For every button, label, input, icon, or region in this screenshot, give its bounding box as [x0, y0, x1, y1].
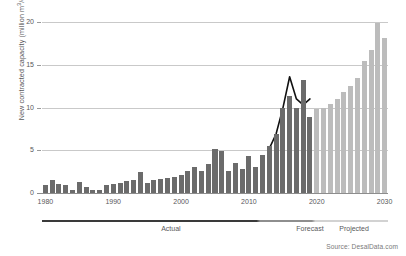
- y-axis-title-post: /d): [17, 0, 26, 3]
- bar: [307, 117, 312, 193]
- bar: [321, 108, 326, 194]
- bar: [246, 156, 251, 193]
- source-caption: Source: DesalData.com: [326, 243, 398, 250]
- y-axis-tick: [37, 150, 41, 151]
- bar: [151, 180, 156, 193]
- phase-band-line: [42, 220, 388, 222]
- bar: [43, 185, 48, 193]
- bar: [84, 187, 89, 193]
- y-axis-tick: [37, 22, 41, 23]
- phase-band-label: Actual: [136, 225, 206, 232]
- bar: [111, 184, 116, 193]
- plot-area: [42, 22, 388, 193]
- bar: [56, 184, 61, 193]
- bar: [280, 108, 285, 193]
- bar: [274, 134, 279, 193]
- bar: [199, 171, 204, 193]
- x-axis-line: [37, 193, 388, 194]
- bar: [314, 109, 319, 193]
- bar: [301, 80, 306, 193]
- y-axis-title-exponent: 3: [16, 3, 22, 6]
- y-axis-tick-label: 20: [0, 18, 34, 25]
- bar: [104, 185, 109, 193]
- chart-figure: New contracted capacity (million m3/d) S…: [0, 0, 406, 256]
- bar: [131, 180, 136, 193]
- bar: [287, 96, 292, 193]
- gridline: [42, 22, 388, 23]
- bar: [362, 61, 367, 193]
- y-axis-tick: [37, 65, 41, 66]
- bar: [294, 108, 299, 194]
- y-axis-tick-label: 10: [0, 104, 34, 111]
- bar: [341, 92, 346, 193]
- bar: [328, 104, 333, 193]
- bar: [118, 183, 123, 193]
- bar: [90, 190, 95, 193]
- bar: [172, 177, 177, 193]
- x-axis-tick-label: 2020: [297, 198, 337, 205]
- x-axis-tick-label: 2010: [229, 198, 269, 205]
- bar: [253, 167, 258, 194]
- y-axis-tick-label: 0: [0, 189, 34, 196]
- bar: [260, 155, 265, 193]
- bar: [179, 175, 184, 193]
- gridline: [42, 65, 388, 66]
- bar: [206, 164, 211, 193]
- bar: [348, 86, 353, 193]
- bar: [77, 182, 82, 193]
- bar: [226, 171, 231, 193]
- bar: [165, 178, 170, 193]
- bar: [138, 172, 143, 193]
- phase-band-label: Projected: [319, 225, 389, 232]
- bar: [63, 185, 68, 193]
- x-axis-tick-label: 2030: [365, 198, 405, 205]
- bar: [158, 179, 163, 193]
- bar: [355, 78, 360, 193]
- bar: [97, 190, 102, 193]
- bar: [70, 190, 75, 193]
- x-axis-tick-label: 1990: [93, 198, 133, 205]
- bar: [267, 146, 272, 193]
- bar: [212, 149, 217, 193]
- x-axis-tick-label: 2000: [161, 198, 201, 205]
- y-axis-tick: [37, 108, 41, 109]
- bar: [335, 99, 340, 193]
- x-axis-tick-label: 1980: [25, 198, 65, 205]
- bar: [233, 163, 238, 193]
- bar: [192, 167, 197, 193]
- bar: [50, 180, 55, 193]
- bar: [145, 183, 150, 193]
- bar: [382, 38, 387, 193]
- bar: [185, 171, 190, 193]
- bar: [219, 151, 224, 193]
- y-axis-tick-label: 5: [0, 146, 34, 153]
- bar: [369, 50, 374, 193]
- bar: [375, 23, 380, 193]
- y-axis-tick-label: 15: [0, 61, 34, 68]
- bar: [124, 181, 129, 193]
- bar: [240, 169, 245, 193]
